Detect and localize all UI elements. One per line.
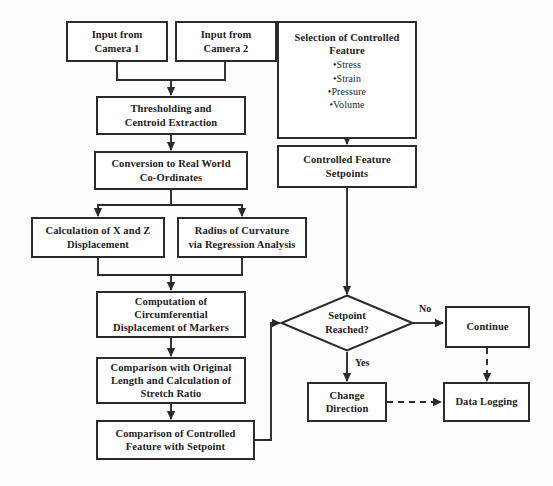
node-label-line: Radius of Curvature	[195, 224, 289, 237]
node-label-line: Stretch Ratio	[141, 387, 202, 400]
edge-label-yes: Yes	[355, 357, 369, 368]
edge-radius-merge	[171, 258, 242, 275]
node-computation-circumferential-displacement[interactable]: Computation of Circumferential Displacem…	[96, 291, 246, 338]
node-label-line: Input from	[92, 28, 143, 41]
edge-conversion-split-right	[171, 205, 242, 216]
node-label-line: Setpoints	[326, 167, 368, 180]
node-controlled-feature-setpoints[interactable]: Controlled Feature Setpoints	[277, 145, 417, 188]
edge-label-no: No	[419, 303, 431, 314]
node-calculation-x-z-displacement[interactable]: Calculation of X and Z Displacement	[31, 217, 165, 258]
node-label-line: Calculation of X and Z	[46, 224, 151, 237]
node-label-line: Displacement of Markers	[113, 321, 229, 334]
node-continue[interactable]: Continue	[445, 306, 530, 348]
node-setpoint-reached-decision[interactable]: Setpoint Reached?	[280, 294, 414, 352]
node-label-line: Camera 1	[95, 42, 140, 55]
node-label-line: Conversion to Real World	[111, 157, 230, 170]
node-label-line: Direction	[326, 402, 369, 415]
bullet-item-strain: •Strain	[333, 72, 361, 85]
node-data-logging[interactable]: Data Logging	[443, 382, 530, 422]
node-label-line: Feature with Setpoint	[126, 440, 225, 453]
node-label-line: Co-Ordinates	[140, 171, 202, 184]
flowchart-canvas: Input from Camera 1 Input from Camera 2 …	[0, 0, 553, 486]
edge-controlled-to-diamond	[255, 323, 280, 440]
node-comparison-controlled-feature-setpoint[interactable]: Comparison of Controlled Feature with Se…	[96, 420, 255, 460]
bullet-item-volume: •Volume	[329, 98, 364, 111]
controlled-feature-bullet-list: •Stress •Strain •Pressure •Volume	[328, 58, 366, 111]
node-input-camera-1[interactable]: Input from Camera 1	[66, 21, 168, 62]
node-label-line: Feature	[329, 44, 365, 57]
edge-conversion-split	[98, 190, 171, 216]
node-conversion-real-world-coordinates[interactable]: Conversion to Real World Co-Ordinates	[94, 151, 248, 190]
node-label-line: Circumferential	[134, 308, 207, 321]
node-label-line: Input from	[201, 28, 252, 41]
node-radius-curvature-regression[interactable]: Radius of Curvature via Regression Analy…	[177, 217, 307, 258]
node-selection-of-controlled-feature[interactable]: Selection of Controlled Feature •Stress …	[277, 21, 417, 139]
diamond-shape	[280, 294, 414, 352]
node-label-line: Centroid Extraction	[125, 116, 217, 129]
node-label-line: Camera 2	[204, 42, 249, 55]
bullet-item-pressure: •Pressure	[328, 85, 366, 98]
node-label-line: Continue	[466, 320, 508, 333]
node-label-line: Change	[329, 389, 364, 402]
node-label-line: Comparison of Controlled	[115, 427, 235, 440]
node-label-line: Selection of Controlled	[295, 31, 400, 44]
node-change-direction[interactable]: Change Direction	[307, 382, 387, 422]
node-label-line: Controlled Feature	[303, 153, 390, 166]
node-label-line: Length and Calculation of	[111, 374, 231, 387]
node-label-line: Thresholding and	[130, 102, 211, 115]
node-label-line: Computation of	[135, 295, 207, 308]
node-label-line: Comparison with Original	[111, 361, 232, 374]
edge-calcxz-merge	[98, 258, 171, 275]
node-thresholding-centroid-extraction[interactable]: Thresholding and Centroid Extraction	[96, 96, 246, 135]
node-label-line: via Regression Analysis	[188, 238, 295, 251]
node-comparison-original-length-stretch-ratio[interactable]: Comparison with Original Length and Calc…	[96, 357, 246, 404]
node-label-line: Data Logging	[455, 395, 517, 408]
edge-camera2-merge	[171, 62, 225, 80]
node-input-camera-2[interactable]: Input from Camera 2	[175, 21, 277, 62]
bullet-item-stress: •Stress	[333, 58, 361, 71]
node-label-line: Displacement	[67, 238, 129, 251]
edge-camera1-merge	[117, 62, 171, 80]
